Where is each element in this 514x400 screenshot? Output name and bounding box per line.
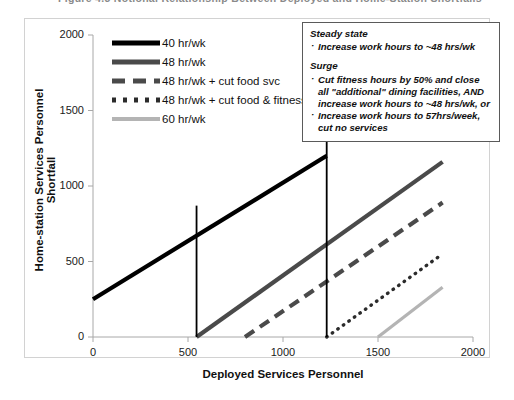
- legend-swatch-dotted-black-icon: [112, 94, 160, 106]
- recommendation-callout: Steady state Increase work hours to ~48 …: [302, 22, 500, 142]
- legend-swatch-solid-light-gray-icon: [112, 113, 160, 125]
- series-group: [93, 156, 443, 337]
- callout-bullets-steady-state: Increase work hours to ~48 hrs/wk: [310, 41, 492, 53]
- callout-heading-surge: Surge: [310, 60, 492, 72]
- legend-label-40hr: 40 hr/wk: [160, 37, 205, 49]
- series-line-40-hr-wk: [93, 156, 327, 299]
- callout-bullet-surge-1: Cut fitness hours by 50% and close all "…: [310, 74, 492, 110]
- x-tick-label-0: 0: [69, 346, 117, 358]
- legend-item-48hr-cut-food: 48 hr/wk + cut food svc: [112, 71, 307, 90]
- y-tick-label-0: 0: [42, 330, 84, 342]
- callout-spacer: [310, 53, 492, 60]
- callout-bullet-steady-1: Increase work hours to ~48 hrs/wk: [310, 41, 492, 53]
- series-line-48-hr-wk-cut-food-fitness: [327, 254, 443, 337]
- chart-page: Figure 4.3 Notional Relationship Between…: [0, 0, 514, 400]
- legend-swatch-solid-black-icon: [112, 37, 160, 49]
- legend-swatch-solid-dark-gray-icon: [112, 56, 160, 68]
- x-tick-label-2000: 2000: [449, 346, 497, 358]
- chart-legend: 40 hr/wk 48 hr/wk 48 hr/wk + cut food sv…: [112, 33, 307, 128]
- x-tick-label-1500: 1500: [354, 346, 402, 358]
- y-tick-label-2000: 2000: [42, 28, 84, 40]
- legend-item-48hr-cut-food-fitness: 48 hr/wk + cut food & fitness: [112, 90, 307, 109]
- legend-label-48hr-cut-food: 48 hr/wk + cut food svc: [160, 75, 280, 87]
- legend-label-48hr-cut-food-fitness: 48 hr/wk + cut food & fitness: [160, 94, 307, 106]
- legend-swatch-dashed-gray-icon: [112, 75, 160, 87]
- series-line-48-hr-wk-cut-food-svc: [245, 203, 443, 337]
- callout-bullets-surge: Cut fitness hours by 50% and close all "…: [310, 74, 492, 134]
- legend-item-40hr: 40 hr/wk: [112, 33, 307, 52]
- callout-heading-steady-state: Steady state: [310, 28, 492, 40]
- x-axis-title: Deployed Services Personnel: [93, 368, 473, 380]
- legend-item-60hr: 60 hr/wk: [112, 109, 307, 128]
- legend-label-60hr: 60 hr/wk: [160, 113, 205, 125]
- y-axis-title: Home-station Services Personnel Shortfal…: [33, 65, 57, 295]
- legend-label-48hr: 48 hr/wk: [160, 56, 205, 68]
- x-tick-label-500: 500: [164, 346, 212, 358]
- series-line-48-hr-wk: [197, 162, 443, 337]
- callout-bullet-surge-2: Increase work hours to 57hrs/week, cut n…: [310, 110, 492, 134]
- legend-item-48hr: 48 hr/wk: [112, 52, 307, 71]
- x-tick-label-1000: 1000: [259, 346, 307, 358]
